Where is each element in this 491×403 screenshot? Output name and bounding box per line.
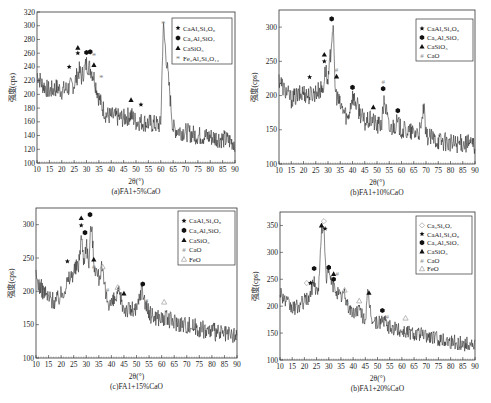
svg-text:#: # <box>381 78 385 86</box>
svg-text:*: * <box>161 19 166 29</box>
svg-text:85: 85 <box>221 360 229 369</box>
legend: CaAl₂Si₂O₈Ca₂Al₂SiO₇CaSiO₃#CaOFeO <box>178 211 235 265</box>
svg-text:25: 25 <box>313 362 321 371</box>
xrd-chart-b: 1015202530354045505560657075808590100150… <box>245 0 491 200</box>
svg-text:25: 25 <box>312 166 320 175</box>
legend-item-label: CaSiO₃ <box>189 237 210 244</box>
legend-item-label: CaSiO₃ <box>183 45 204 52</box>
svg-text:100: 100 <box>266 160 278 169</box>
svg-text:70: 70 <box>422 166 430 175</box>
svg-text:80: 80 <box>207 165 215 174</box>
svg-text:35: 35 <box>337 362 345 371</box>
legend: CaAl₂Si₂O₈Ca₂Al₂SiO₇CaSiO₃*Fe₃Al₂Si₃O₁₂ <box>172 18 232 64</box>
svg-text:55: 55 <box>145 360 153 369</box>
svg-text:20: 20 <box>300 166 308 175</box>
svg-text:40: 40 <box>349 166 357 175</box>
legend-item-label: FeO <box>189 256 201 263</box>
svg-text:#: # <box>336 270 340 278</box>
svg-text:90: 90 <box>471 166 479 175</box>
svg-text:75: 75 <box>194 165 202 174</box>
svg-text:60: 60 <box>158 360 166 369</box>
xrd-panel-d: 1015202530354045505560657075808590100150… <box>245 200 491 403</box>
svg-text:50: 50 <box>374 362 382 371</box>
svg-text:90: 90 <box>471 362 479 371</box>
svg-text:20: 20 <box>58 165 66 174</box>
svg-text:60: 60 <box>398 362 406 371</box>
svg-text:45: 45 <box>361 166 369 175</box>
svg-text:120: 120 <box>24 145 36 154</box>
svg-text:#: # <box>420 52 424 60</box>
legend-item-label: Ca₂Al₂SiO₇ <box>189 227 222 234</box>
svg-text:#: # <box>335 66 339 74</box>
svg-text:40: 40 <box>108 165 116 174</box>
svg-text:35: 35 <box>95 360 103 369</box>
svg-text:65: 65 <box>410 362 418 371</box>
svg-text:80: 80 <box>208 360 216 369</box>
svg-text:70: 70 <box>183 360 191 369</box>
svg-text:35: 35 <box>337 166 345 175</box>
svg-text:150: 150 <box>266 125 278 134</box>
y-axis-label: 强度(cps) <box>7 73 17 102</box>
svg-text:220: 220 <box>24 76 36 85</box>
svg-text:75: 75 <box>435 166 443 175</box>
svg-text:240: 240 <box>24 62 36 71</box>
svg-text:75: 75 <box>196 360 204 369</box>
legend-item-label: CaSiO₃ <box>427 248 448 255</box>
svg-text:90: 90 <box>233 360 241 369</box>
legend-item-label: Ca₃Si₂O₇ <box>427 222 453 229</box>
svg-text:#: # <box>145 297 149 305</box>
svg-text:15: 15 <box>288 362 296 371</box>
svg-text:100: 100 <box>23 354 35 363</box>
peak-markers: ### <box>65 212 167 304</box>
svg-text:55: 55 <box>145 165 153 174</box>
svg-text:85: 85 <box>219 165 227 174</box>
xrd-chart-d: 1015202530354045505560657075808590100150… <box>245 200 491 403</box>
legend-item-label: CaAl₂Si₂O₈ <box>427 231 460 238</box>
panel-caption: (b)FA1+10%CaO <box>350 188 404 197</box>
svg-text:45: 45 <box>120 360 128 369</box>
svg-text:15: 15 <box>46 165 54 174</box>
svg-text:200: 200 <box>23 287 35 296</box>
svg-text:30: 30 <box>83 165 91 174</box>
svg-text:320: 320 <box>24 8 36 17</box>
svg-text:30: 30 <box>324 166 332 175</box>
x-axis-label: 2θ(°) <box>369 178 385 187</box>
svg-text:25: 25 <box>70 165 78 174</box>
svg-text:*: * <box>176 54 181 64</box>
panel-caption: (a)FA1+5%CaO <box>111 187 161 196</box>
svg-text:180: 180 <box>24 104 36 113</box>
legend-item-label: CaO <box>189 246 202 253</box>
svg-text:20: 20 <box>301 362 309 371</box>
svg-text:90: 90 <box>231 165 239 174</box>
svg-text:#: # <box>345 299 349 307</box>
svg-text:85: 85 <box>459 362 467 371</box>
svg-text:85: 85 <box>459 166 467 175</box>
svg-text:100: 100 <box>267 356 279 365</box>
xrd-panel-c: 1015202530354045505560657075808590100150… <box>0 200 245 403</box>
svg-text:160: 160 <box>24 117 36 126</box>
legend-item-label: CaO <box>427 257 440 264</box>
svg-text:*: * <box>92 51 97 61</box>
svg-text:200: 200 <box>267 302 279 311</box>
svg-text:250: 250 <box>267 275 279 284</box>
legend: CaAl₂Si₂O₈Ca₂Al₂SiO₇CaSiO₃#CaO <box>416 19 473 61</box>
svg-text:80: 80 <box>447 166 455 175</box>
svg-text:45: 45 <box>120 165 128 174</box>
svg-text:15: 15 <box>45 360 53 369</box>
svg-text:40: 40 <box>108 360 116 369</box>
y-axis-label: 强度(cps) <box>249 72 259 101</box>
svg-text:300: 300 <box>24 21 36 30</box>
panel-caption: (b)FA1+20%CaO <box>351 384 405 393</box>
legend-item-label: Fe₃Al₂Si₃O₁₂ <box>183 55 219 62</box>
svg-text:60: 60 <box>398 166 406 175</box>
x-axis-label: 2θ(°) <box>128 177 144 186</box>
svg-text:35: 35 <box>95 165 103 174</box>
svg-text:200: 200 <box>266 91 278 100</box>
svg-text:260: 260 <box>24 49 36 58</box>
svg-text:60: 60 <box>157 165 165 174</box>
x-axis-label: 2θ(°) <box>370 374 386 383</box>
svg-text:50: 50 <box>132 165 140 174</box>
svg-text:15: 15 <box>288 166 296 175</box>
svg-text:65: 65 <box>410 166 418 175</box>
svg-text:65: 65 <box>170 360 178 369</box>
